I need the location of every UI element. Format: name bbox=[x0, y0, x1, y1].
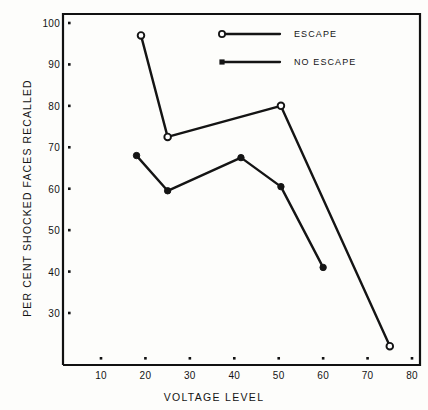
x-tick-dot bbox=[189, 357, 192, 360]
legend-label-0: ESCAPE bbox=[294, 29, 337, 39]
legend-label-1: NO ESCAPE bbox=[294, 57, 356, 67]
data-point-open bbox=[164, 134, 171, 141]
axis-frame bbox=[63, 14, 420, 365]
y-tick-dot bbox=[68, 270, 71, 273]
x-tick-label: 60 bbox=[317, 370, 329, 381]
x-axis-ticks bbox=[100, 357, 414, 360]
x-tick-label: 40 bbox=[228, 370, 240, 381]
y-tick-label: 50 bbox=[30, 225, 60, 236]
y-tick-dot bbox=[68, 22, 71, 25]
data-point-open bbox=[138, 32, 145, 39]
y-axis-title: PER CENT SHOCKED FACES RECALLED bbox=[21, 78, 33, 318]
x-tick-label: 70 bbox=[362, 370, 374, 381]
x-tick-dot bbox=[233, 357, 236, 360]
y-axis-ticks bbox=[68, 22, 71, 315]
x-tick-label: 50 bbox=[273, 370, 285, 381]
series-line-0 bbox=[141, 35, 390, 346]
x-axis-title: VOLTAGE LEVEL bbox=[0, 391, 428, 403]
x-tick-dot bbox=[277, 357, 280, 360]
y-tick-dot bbox=[68, 146, 71, 149]
y-tick-label: 80 bbox=[30, 100, 60, 111]
x-tick-label: 10 bbox=[95, 370, 107, 381]
x-tick-label: 30 bbox=[184, 370, 196, 381]
y-tick-dot bbox=[68, 63, 71, 66]
x-tick-dot bbox=[366, 357, 369, 360]
plot-area bbox=[0, 0, 428, 410]
y-tick-label: 70 bbox=[30, 142, 60, 153]
y-tick-label: 40 bbox=[30, 266, 60, 277]
data-point-open bbox=[386, 343, 393, 350]
data-series-layer bbox=[133, 32, 393, 349]
x-tick-dot bbox=[100, 357, 103, 360]
data-point-open bbox=[278, 103, 285, 110]
data-point-filled bbox=[238, 154, 244, 160]
legend-marker-open-circle bbox=[219, 31, 225, 37]
y-tick-dot bbox=[68, 312, 71, 315]
x-tick-dot bbox=[411, 357, 414, 360]
x-tick-dot bbox=[322, 357, 325, 360]
x-tick-dot bbox=[144, 357, 147, 360]
series-line-1 bbox=[137, 156, 324, 268]
data-point-filled bbox=[278, 183, 284, 189]
y-tick-dot bbox=[68, 229, 71, 232]
data-point-filled bbox=[164, 188, 170, 194]
legend-marks bbox=[219, 31, 280, 65]
x-tick-label: 80 bbox=[406, 370, 418, 381]
y-tick-label: 100 bbox=[30, 18, 60, 29]
y-tick-label: 60 bbox=[30, 183, 60, 194]
data-point-filled bbox=[320, 264, 326, 270]
y-tick-dot bbox=[68, 105, 71, 108]
y-tick-label: 30 bbox=[30, 308, 60, 319]
y-tick-dot bbox=[68, 187, 71, 190]
x-tick-label: 20 bbox=[140, 370, 152, 381]
chart-figure: 304050607080901001020304050607080 PER CE… bbox=[0, 0, 428, 410]
y-tick-label: 90 bbox=[30, 59, 60, 70]
data-point-filled bbox=[133, 152, 139, 158]
legend-marker-filled-square bbox=[219, 59, 224, 64]
